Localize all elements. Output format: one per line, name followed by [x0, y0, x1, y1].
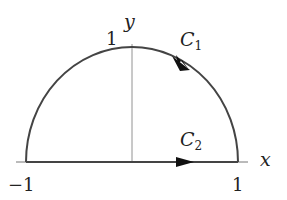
- c2-sub: 2: [195, 139, 203, 153]
- diagram-canvas: [0, 0, 287, 200]
- x-tick-1: 1: [232, 176, 243, 194]
- c2-arrow-icon: [176, 157, 194, 167]
- contour-diagram: y 1 C1 C2 x −1 1: [0, 0, 287, 200]
- y-axis-label: y: [124, 12, 135, 31]
- x-axis-label: x: [260, 150, 271, 169]
- y-tick-1: 1: [106, 30, 117, 48]
- c1-sub: 1: [195, 39, 203, 53]
- c1-label: C1: [180, 30, 202, 52]
- c2-label: C2: [180, 130, 202, 152]
- c1-main: C: [180, 28, 195, 50]
- x-tick-neg1: −1: [8, 176, 35, 194]
- c2-main: C: [180, 128, 195, 150]
